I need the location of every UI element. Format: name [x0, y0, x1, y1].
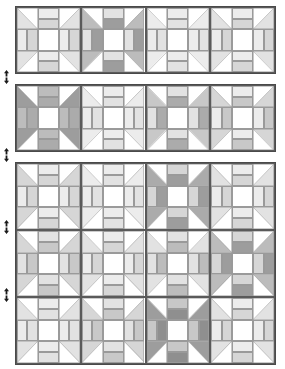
bar-segment — [27, 186, 37, 208]
bar-segment — [167, 129, 188, 140]
bar-segment — [59, 253, 69, 275]
bar-segment — [103, 341, 124, 352]
quilt-block-p3r1c1[interactable] — [16, 163, 81, 230]
bar-segment — [167, 51, 188, 62]
quilt-block-p3r2c3[interactable] — [146, 230, 211, 297]
bar-segment — [69, 320, 79, 342]
bar-segment — [92, 107, 102, 128]
quilt-block-p3r1c2[interactable] — [81, 163, 146, 230]
quilt-panel-2[interactable] — [15, 84, 276, 152]
block-corner-bottom-left — [17, 207, 38, 229]
quilt-block-p3r3c1[interactable] — [16, 297, 81, 364]
block-corner-bottom-right — [59, 129, 80, 150]
bar-segment — [38, 175, 59, 186]
block-side-right — [253, 253, 274, 275]
bar-segment — [38, 207, 59, 218]
bar-segment — [134, 253, 144, 275]
center-square — [167, 29, 188, 50]
block-corner-bottom-left — [82, 274, 103, 296]
hst-seam-line — [17, 207, 38, 229]
bar-segment — [38, 51, 59, 62]
quilt-block-p2r1c2[interactable] — [81, 85, 146, 151]
quilt-panel-1[interactable] — [15, 6, 276, 74]
block-side-bottom — [167, 341, 188, 363]
bar-segment — [232, 175, 253, 186]
bar-segment — [167, 164, 188, 175]
block-side-top — [38, 298, 59, 320]
bar-segment — [124, 186, 134, 208]
bar-segment — [17, 29, 27, 50]
bar-segment — [38, 285, 59, 296]
block-side-left — [211, 320, 232, 342]
hst-seam-line — [82, 298, 103, 320]
quilt-block-p1r1c3[interactable] — [146, 7, 211, 73]
bar-segment — [188, 107, 198, 128]
block-corner-bottom-right — [188, 51, 209, 72]
block-corner-bottom-right — [124, 341, 145, 363]
bar-segment — [232, 86, 253, 97]
hst-seam-line — [253, 298, 274, 320]
bar-segment — [38, 309, 59, 320]
block-center — [38, 253, 59, 275]
block-corner-top-left — [211, 86, 232, 107]
bar-segment — [103, 231, 124, 242]
block-corner-bottom-right — [59, 341, 80, 363]
block-center — [103, 253, 124, 275]
block-side-top — [38, 164, 59, 186]
quilt-block-p1r1c2[interactable] — [81, 7, 146, 73]
bar-segment — [124, 107, 134, 128]
bar-segment — [103, 86, 124, 97]
quilt-block-p2r1c1[interactable] — [16, 85, 81, 151]
block-center — [38, 186, 59, 208]
quilt-block-p3r3c4[interactable] — [210, 297, 275, 364]
center-square — [103, 186, 124, 208]
bar-segment — [167, 19, 188, 30]
block-center — [232, 186, 253, 208]
block-side-top — [103, 298, 124, 320]
hst-seam-line — [147, 164, 168, 186]
bar-segment — [222, 186, 232, 208]
block-side-bottom — [232, 129, 253, 150]
quilt-block-p3r3c3[interactable] — [146, 297, 211, 364]
bar-segment — [38, 8, 59, 19]
bar-segment — [103, 274, 124, 285]
block-center — [232, 253, 253, 275]
quilt-block-p3r3c2[interactable] — [81, 297, 146, 364]
quilt-block-p3r1c3[interactable] — [146, 163, 211, 230]
quilt-block-p2r1c4[interactable] — [210, 85, 275, 151]
bar-segment — [264, 253, 274, 275]
block-side-top — [167, 164, 188, 186]
quilt-block-p3r2c2[interactable] — [81, 230, 146, 297]
bar-segment — [232, 274, 253, 285]
quilt-block-p3r2c4[interactable] — [210, 230, 275, 297]
bar-segment — [167, 97, 188, 108]
center-square — [38, 186, 59, 208]
block-corner-bottom-left — [211, 274, 232, 296]
block-side-left — [211, 253, 232, 275]
quilt-block-p3r1c4[interactable] — [210, 163, 275, 230]
bar-segment — [27, 29, 37, 50]
panel-block-grid — [16, 163, 275, 364]
quilt-block-p2r1c3[interactable] — [146, 85, 211, 151]
quilt-block-p1r1c1[interactable] — [16, 7, 81, 73]
bar-segment — [167, 298, 188, 309]
quilt-block-p3r2c1[interactable] — [16, 230, 81, 297]
block-side-right — [59, 186, 80, 208]
block-side-bottom — [103, 51, 124, 72]
center-square — [103, 320, 124, 342]
bar-segment — [92, 186, 102, 208]
bar-segment — [264, 320, 274, 342]
hst-seam-line — [124, 298, 145, 320]
up-down-arrow-icon — [2, 288, 11, 302]
bar-segment — [134, 186, 144, 208]
block-center — [167, 253, 188, 275]
quilt-panel-3[interactable] — [15, 162, 276, 365]
bar-segment — [147, 29, 157, 50]
block-side-top — [103, 164, 124, 186]
bar-segment — [38, 242, 59, 253]
block-side-top — [103, 231, 124, 253]
quilt-block-p1r1c4[interactable] — [210, 7, 275, 73]
block-side-bottom — [232, 207, 253, 229]
bar-segment — [232, 97, 253, 108]
bar-segment — [82, 29, 92, 50]
